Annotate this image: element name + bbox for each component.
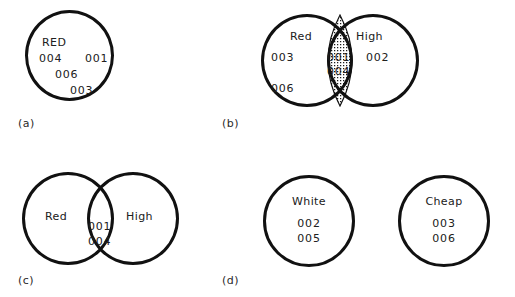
- member-code: 005: [297, 232, 320, 245]
- set-label-high: High: [126, 210, 153, 223]
- panel-b: Red High 003 006 002 001 004 (b): [215, 0, 515, 150]
- panel-caption-d: (d): [222, 274, 239, 287]
- member-code: 006: [55, 68, 78, 81]
- intersection-member-code: 004: [88, 235, 111, 248]
- set-label-high: High: [356, 30, 383, 43]
- member-code: 003: [271, 51, 294, 64]
- set-label-white: White: [292, 195, 326, 208]
- panel-caption-c: (c): [18, 274, 34, 287]
- intersection-member-code: 001: [327, 51, 350, 64]
- intersection-member-code: 001: [88, 220, 111, 233]
- member-code: 003: [432, 217, 455, 230]
- set-label-cheap: Cheap: [425, 195, 462, 208]
- member-code: 006: [271, 82, 294, 95]
- member-code: 004: [39, 52, 62, 65]
- panel-caption-b: (b): [222, 117, 239, 130]
- panel-d: White Cheap 002 005 003 006 (d): [215, 150, 515, 297]
- set-label-red: Red: [45, 210, 67, 223]
- panel-c: Red High 001 004 (c): [0, 150, 215, 297]
- member-code: 006: [432, 232, 455, 245]
- member-code: 003: [70, 84, 93, 97]
- venn-diagram-figure: RED 004 001 006 003 (a): [0, 0, 515, 297]
- set-label-red: RED: [42, 36, 66, 49]
- member-code: 001: [85, 52, 108, 65]
- panel-caption-a: (a): [18, 117, 35, 130]
- member-code: 002: [366, 51, 389, 64]
- member-code: 002: [297, 217, 320, 230]
- intersection-member-code: 004: [327, 65, 350, 78]
- set-label-red: Red: [290, 30, 312, 43]
- panel-a: RED 004 001 006 003 (a): [0, 0, 215, 150]
